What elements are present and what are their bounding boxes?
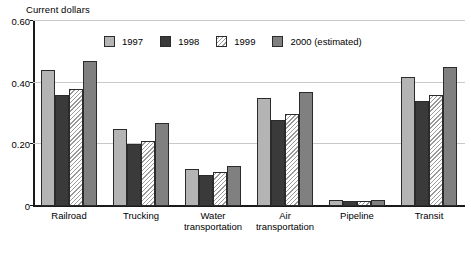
y-axis-ticks: 00.200.400.60 bbox=[0, 21, 30, 206]
y-axis-tick-label: 0 bbox=[0, 201, 30, 212]
x-axis-category-label: Transit bbox=[393, 210, 465, 221]
legend-swatch-icon bbox=[216, 36, 227, 47]
bar-group bbox=[33, 21, 105, 206]
plot-area bbox=[33, 21, 465, 206]
bar-group bbox=[105, 21, 177, 206]
legend-swatch-icon bbox=[104, 36, 115, 47]
x-axis-category-label: Pipeline bbox=[321, 210, 393, 221]
bar-transit-1997 bbox=[401, 77, 415, 207]
bar-group-bars bbox=[177, 21, 249, 206]
bar-pipeline-1997 bbox=[329, 200, 343, 206]
bar-trucking-1997 bbox=[113, 129, 127, 206]
legend-item-label: 2000 (estimated) bbox=[290, 36, 361, 47]
x-axis-category-label: Trucking bbox=[105, 210, 177, 221]
y-axis-title: Current dollars bbox=[26, 4, 90, 15]
legend-item: 1999 bbox=[216, 36, 255, 47]
y-axis-tick-label: 0.20 bbox=[0, 139, 30, 150]
x-axis-category-label: Air transportation bbox=[249, 210, 321, 232]
legend-item-label: 1997 bbox=[122, 36, 143, 47]
y-axis-tick-label: 0.40 bbox=[0, 77, 30, 88]
bar-air-transportation-2000 bbox=[299, 92, 313, 206]
bar-railroad-2000 bbox=[83, 61, 97, 206]
y-axis-tick-label: 0.60 bbox=[0, 16, 30, 27]
bar-air-transportation-1997 bbox=[257, 98, 271, 206]
bar-trucking-2000 bbox=[155, 123, 169, 206]
bar-group bbox=[393, 21, 465, 206]
x-axis-category-label: Water transportation bbox=[177, 210, 249, 232]
x-axis-category-label: Railroad bbox=[33, 210, 105, 221]
bar-pipeline-1998 bbox=[343, 201, 357, 206]
legend-item-label: 1998 bbox=[178, 36, 199, 47]
bar-group-bars bbox=[393, 21, 465, 206]
bar-water-transportation-1997 bbox=[185, 169, 199, 206]
bar-group-bars bbox=[249, 21, 321, 206]
legend-swatch-icon bbox=[160, 36, 171, 47]
bar-group bbox=[321, 21, 393, 206]
legend-item-label: 1999 bbox=[234, 36, 255, 47]
bar-group bbox=[177, 21, 249, 206]
bar-group-bars bbox=[33, 21, 105, 206]
chart-legend: 1997199819992000 (estimated) bbox=[104, 36, 379, 47]
bar-transit-2000 bbox=[443, 67, 457, 206]
bar-railroad-1998 bbox=[55, 95, 69, 206]
bar-group-bars bbox=[105, 21, 177, 206]
bar-transit-1998 bbox=[415, 101, 429, 206]
bar-pipeline-1999 bbox=[357, 201, 371, 206]
bar-water-transportation-2000 bbox=[227, 166, 241, 206]
bar-water-transportation-1998 bbox=[199, 175, 213, 206]
bar-group bbox=[249, 21, 321, 206]
bar-water-transportation-1999 bbox=[213, 172, 227, 206]
bar-air-transportation-1999 bbox=[285, 114, 299, 207]
bar-trucking-1999 bbox=[141, 141, 155, 206]
bar-air-transportation-1998 bbox=[271, 120, 285, 206]
bar-pipeline-2000 bbox=[371, 200, 385, 206]
bar-trucking-1998 bbox=[127, 144, 141, 206]
legend-item: 1998 bbox=[160, 36, 199, 47]
legend-item: 1997 bbox=[104, 36, 143, 47]
legend-swatch-icon bbox=[272, 36, 283, 47]
bar-railroad-1999 bbox=[69, 89, 83, 206]
bar-group-bars bbox=[321, 21, 393, 206]
bar-chart: Current dollars 00.200.400.60 1997199819… bbox=[0, 0, 471, 260]
legend-item: 2000 (estimated) bbox=[272, 36, 361, 47]
bar-transit-1999 bbox=[429, 95, 443, 206]
bar-railroad-1997 bbox=[41, 70, 55, 206]
